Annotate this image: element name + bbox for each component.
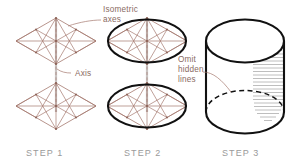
annotation-omit-line1: Omit — [178, 55, 197, 64]
annotation-isometric-axes-line1: Isometric — [103, 5, 138, 14]
step1-bottom-rhombus — [16, 82, 96, 130]
step-label-3: STEP 3 — [222, 148, 259, 158]
annotation-axis: Axis — [75, 69, 91, 78]
leader-isometric-axes — [68, 20, 101, 26]
leader-lines — [57, 20, 231, 92]
step2-top-rhombus — [107, 17, 187, 65]
annotation-isometric-axes-line2: axes — [103, 15, 121, 24]
step2-bottom-rhombus — [107, 82, 187, 130]
step-label-2: STEP 2 — [124, 148, 161, 158]
figure-canvas: Isometric axes Axis Omit hidden lines ST… — [0, 0, 294, 163]
illustration-svg: Isometric axes Axis Omit hidden lines ST… — [0, 0, 294, 163]
leader-axis — [57, 69, 71, 73]
annotation-omit-line3: lines — [178, 75, 196, 84]
step1-top-rhombus — [16, 17, 96, 65]
annotation-omit-line2: hidden — [178, 65, 204, 74]
step-3-drawing — [206, 20, 284, 134]
step-label-1: STEP 1 — [26, 148, 63, 158]
step-2-drawing — [107, 17, 187, 130]
cylinder-top-ellipse — [206, 20, 284, 63]
